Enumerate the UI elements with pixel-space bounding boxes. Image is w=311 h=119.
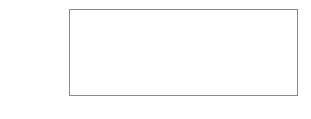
gantt-chart <box>0 0 311 119</box>
plot-area <box>69 9 298 96</box>
